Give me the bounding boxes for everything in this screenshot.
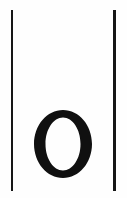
capital-letter-glyph: [0, 0, 127, 198]
letter-o-svg: [0, 0, 127, 198]
letter-o-outline: [34, 110, 92, 178]
page-canvas: O: [0, 0, 127, 198]
letter-o-shape: [34, 110, 92, 178]
